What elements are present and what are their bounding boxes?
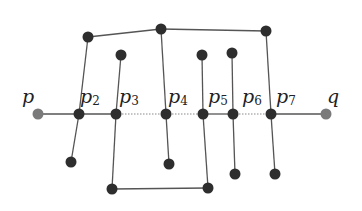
node-p2: [74, 109, 85, 120]
node-i: [107, 184, 118, 195]
node-q: [321, 109, 332, 120]
edge-b-c: [161, 29, 266, 31]
label-p2: p2: [80, 85, 100, 108]
edge-p3-i: [112, 114, 116, 189]
node-b: [156, 24, 167, 35]
node-g: [66, 157, 77, 168]
node-f: [227, 48, 238, 59]
edge-i-j: [112, 188, 208, 189]
label-p4: p4: [168, 85, 188, 108]
label-p: p: [22, 85, 34, 107]
edge-p2-g: [71, 114, 79, 162]
node-k: [230, 169, 241, 180]
label-p3: p3: [119, 85, 139, 108]
node-h: [164, 159, 175, 170]
node-a: [83, 32, 94, 43]
label-p6: p6: [242, 85, 262, 108]
edge-p6-k: [233, 114, 235, 174]
node-p6: [228, 109, 239, 120]
node-p5: [198, 109, 209, 120]
edge-j-p5: [203, 114, 208, 188]
node-p7: [266, 109, 277, 120]
node-p: [33, 109, 44, 120]
label-p7: p7: [276, 85, 296, 108]
edge-f-p6: [232, 53, 233, 114]
edge-b-p4: [161, 29, 166, 114]
label-p5: p5: [208, 85, 228, 108]
edge-p4-h: [166, 114, 169, 164]
label-q: q: [327, 85, 339, 107]
node-j: [203, 183, 214, 194]
node-e: [197, 50, 208, 61]
node-l: [270, 169, 281, 180]
graph-diagram: pp2p3p4p5p6p7q: [0, 0, 362, 211]
nodes-layer: [33, 24, 332, 195]
edge-p5-e: [202, 55, 203, 114]
edge-a-b: [88, 29, 161, 37]
node-p4: [161, 109, 172, 120]
node-p3: [111, 109, 122, 120]
labels-layer: pp2p3p4p5p6p7q: [22, 85, 339, 108]
node-c: [261, 26, 272, 37]
node-d: [116, 50, 127, 61]
edge-c-p7: [266, 31, 271, 114]
edge-p7-l: [271, 114, 275, 174]
